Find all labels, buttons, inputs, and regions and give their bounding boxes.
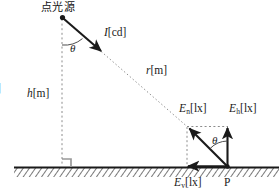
illuminance-diagram: 点光源 I[cd] θ r[m] h[m] ] En[lx] Eh[lx] θ … bbox=[0, 0, 279, 194]
height-unit: [m] bbox=[33, 87, 50, 99]
angle-top-label: θ bbox=[70, 43, 75, 54]
normal-illuminance-label: En[lx] bbox=[179, 103, 207, 116]
source-label: 点光源 bbox=[41, 2, 75, 13]
right-angle-marker-icon bbox=[62, 159, 71, 167]
height-label: h[m] bbox=[27, 88, 49, 100]
vertical-illuminance-unit: [lx] bbox=[185, 176, 202, 188]
clipped-left-label: ] bbox=[0, 83, 1, 95]
vertical-illuminance-label: Ev[lx] bbox=[174, 177, 202, 190]
normal-illuminance-vector bbox=[190, 129, 228, 166]
ground-group bbox=[14, 168, 279, 178]
horizontal-illuminance-symbol: E bbox=[229, 102, 236, 114]
horizontal-illuminance-label: Eh[lx] bbox=[229, 103, 257, 116]
distance-label: r[m] bbox=[146, 65, 167, 77]
point-p-dot bbox=[225, 164, 229, 168]
horizontal-illuminance-unit: [lx] bbox=[240, 102, 257, 114]
normal-illuminance-unit: [lx] bbox=[190, 102, 207, 114]
vertical-illuminance-symbol: E bbox=[174, 176, 181, 188]
normal-illuminance-symbol: E bbox=[179, 102, 186, 114]
intensity-label: I[cd] bbox=[104, 27, 126, 39]
intensity-unit: [cd] bbox=[108, 26, 127, 38]
point-p-label: P bbox=[224, 177, 230, 189]
ground-hatch-band bbox=[14, 168, 279, 177]
distance-unit: [m] bbox=[150, 64, 167, 76]
angle-bottom-label: θ bbox=[212, 135, 217, 146]
